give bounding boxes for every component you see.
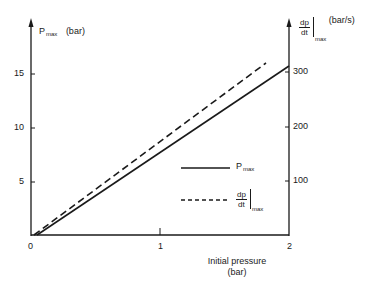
legend-pmax-symbol: P — [236, 161, 242, 171]
left-axis-subscript: max — [46, 31, 57, 37]
right-axis-fraction: dp dt — [299, 18, 310, 37]
left-tick-label-15: 15 — [14, 68, 24, 78]
x-axis-title: Initial pressure (bar) — [199, 256, 275, 278]
legend-eval-bar — [250, 189, 251, 209]
x-axis-title-line1: Initial pressure — [199, 256, 275, 267]
right-tick-label-100: 100 — [293, 175, 308, 185]
legend-dpdt-denominator: dt — [236, 200, 247, 209]
x-tick-label-2: 2 — [287, 241, 292, 251]
x-tick-label-1: 1 — [158, 241, 163, 251]
legend-dpdt-subscript: max — [252, 206, 263, 212]
right-axis-arrow-icon — [287, 18, 292, 27]
x-axis-title-line2: (bar) — [199, 267, 275, 278]
left-axis-label: Pmax (bar) — [39, 26, 85, 37]
legend-item-pmax: Pmax — [236, 161, 254, 172]
left-tick-label-10: 10 — [14, 122, 24, 132]
right-axis-numerator: dp — [299, 18, 310, 28]
left-axis-symbol: P — [39, 26, 45, 36]
right-axis-unit: (bar/s) — [329, 15, 355, 25]
legend-dpdt-fraction: dp dt — [236, 190, 247, 209]
left-axis-unit: (bar) — [66, 26, 85, 36]
right-axis-subscript: max — [315, 36, 326, 42]
right-tick-label-300: 300 — [293, 66, 308, 76]
x-tick-label-0: 0 — [28, 241, 33, 251]
right-axis-label: dp dt max (bar/s) — [299, 17, 355, 42]
right-axis-denominator: dt — [299, 28, 310, 37]
legend-dpdt-numerator: dp — [236, 190, 247, 200]
legend-item-dpdt: dp dt max — [236, 189, 263, 212]
right-axis-eval-bar — [313, 17, 314, 37]
legend-pmax-subscript: max — [243, 166, 254, 172]
chart-canvas — [0, 0, 377, 289]
left-tick-label-5: 5 — [19, 176, 24, 186]
dpdt-dashed-line — [34, 63, 266, 235]
left-axis-arrow-icon — [29, 18, 34, 27]
right-tick-label-200: 200 — [293, 121, 308, 131]
